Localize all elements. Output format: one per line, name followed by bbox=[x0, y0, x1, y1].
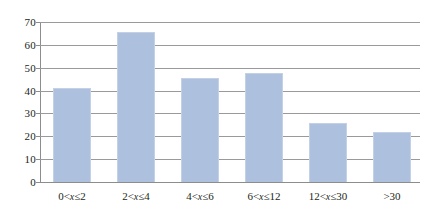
label-prefix: >30 bbox=[383, 190, 400, 202]
y-axis-tick-label: 50 bbox=[2, 63, 36, 74]
y-axis-tick-label: 20 bbox=[2, 131, 36, 142]
label-prefix: 6< bbox=[247, 190, 259, 202]
y-axis-tick-labels: 70 60 50 40 30 20 10 0 bbox=[0, 0, 36, 222]
label-suffix: ≤6 bbox=[202, 190, 214, 202]
bar-chart-figure: 70 60 50 40 30 20 10 0 0<x≤2 bbox=[0, 0, 436, 222]
y-axis-tick-label: 10 bbox=[2, 154, 36, 165]
y-axis-tick-label: 70 bbox=[2, 17, 36, 28]
x-axis-tick-label-over-30: >30 bbox=[353, 190, 431, 203]
plot-area bbox=[40, 22, 420, 182]
label-suffix: ≤2 bbox=[74, 190, 86, 202]
y-axis-tick-label: 30 bbox=[2, 108, 36, 119]
bar-4-to-6 bbox=[181, 78, 219, 182]
bar-2-to-4 bbox=[117, 32, 155, 182]
bar-12-to-30 bbox=[309, 123, 347, 182]
label-prefix: 12< bbox=[309, 190, 326, 202]
bars-layer bbox=[40, 22, 420, 182]
x-axis-tick-labels: 0<x≤2 2<x≤4 4<x≤6 6<x≤12 12<x≤30 >30 bbox=[40, 190, 420, 212]
label-suffix: ≤4 bbox=[138, 190, 150, 202]
bar-over-30 bbox=[373, 132, 411, 182]
label-prefix: 2< bbox=[122, 190, 134, 202]
label-prefix: 0< bbox=[58, 190, 70, 202]
y-axis-tick-label: 60 bbox=[2, 40, 36, 51]
label-suffix: ≤12 bbox=[264, 190, 281, 202]
bar-6-to-12 bbox=[245, 73, 283, 182]
x-axis-baseline bbox=[40, 182, 420, 183]
label-suffix: ≤30 bbox=[330, 190, 347, 202]
y-axis-tick-label: 40 bbox=[2, 86, 36, 97]
y-axis-tick-label: 0 bbox=[2, 177, 36, 188]
bar-0-to-2 bbox=[53, 88, 91, 182]
label-prefix: 4< bbox=[186, 190, 198, 202]
